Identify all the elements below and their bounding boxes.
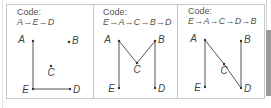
path-diagrams: ABCDEABCDEABCDE xyxy=(0,0,271,108)
point-e-label: E xyxy=(194,82,201,93)
panel-3-diagram: ABCDE xyxy=(189,33,251,94)
point-d-dot xyxy=(69,88,71,90)
point-b-dot xyxy=(154,40,156,42)
point-a-dot xyxy=(204,39,206,41)
point-c-label: C xyxy=(47,67,55,78)
point-a-label: A xyxy=(17,34,25,45)
point-a-dot xyxy=(118,40,120,42)
point-a-label: A xyxy=(189,33,197,44)
point-d-label: D xyxy=(244,83,251,94)
point-e-label: E xyxy=(22,84,29,95)
point-c-label: C xyxy=(220,65,228,76)
point-c-label: C xyxy=(133,64,141,75)
point-b-label: B xyxy=(158,34,165,45)
point-e-dot xyxy=(32,88,34,90)
point-a-label: A xyxy=(103,34,111,45)
point-a-dot xyxy=(32,40,34,42)
point-d-dot xyxy=(154,87,156,89)
panel-2-diagram: ABCDE xyxy=(103,34,165,94)
point-b-label: B xyxy=(244,34,251,45)
point-e-dot xyxy=(204,86,206,88)
point-b-dot xyxy=(68,41,70,43)
point-d-label: D xyxy=(73,84,80,95)
point-b-dot xyxy=(240,40,242,42)
point-d-label: D xyxy=(158,83,165,94)
point-e-label: E xyxy=(108,83,115,94)
point-e-dot xyxy=(118,87,120,89)
point-d-dot xyxy=(240,87,242,89)
panel-1-diagram: ABCDE xyxy=(17,34,80,95)
point-b-label: B xyxy=(72,35,79,46)
